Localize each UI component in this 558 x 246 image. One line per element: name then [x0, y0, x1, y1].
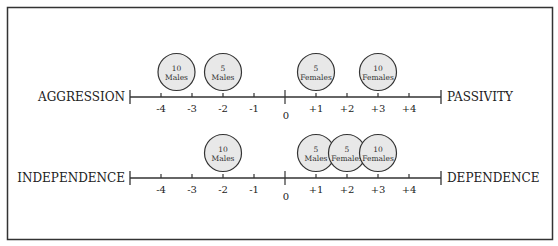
group-circle: 10Males: [158, 54, 195, 91]
group-sex: Males: [212, 154, 235, 163]
group-sex: Males: [212, 73, 235, 82]
tick-label: +3: [371, 103, 386, 114]
group-sex: Males: [305, 154, 328, 163]
diagram-frame: [8, 8, 553, 240]
left-label: INDEPENDENCE: [17, 171, 125, 185]
tick-label: +1: [309, 184, 324, 195]
tick-label: 0: [283, 110, 289, 121]
tick-label: +2: [340, 184, 355, 195]
group-count: 10: [373, 145, 383, 154]
tick-label: 0: [283, 191, 289, 202]
tick-label: +2: [340, 103, 355, 114]
group-count: 5: [314, 64, 319, 73]
left-label: AGGRESSION: [37, 90, 125, 104]
tick-label: -3: [187, 184, 197, 195]
group-circle: 5Males: [205, 54, 242, 91]
group-sex: Females: [331, 154, 363, 163]
tick-label: -2: [218, 184, 228, 195]
right-label: DEPENDENCE: [447, 171, 540, 185]
group-count: 10: [373, 64, 383, 73]
right-label: PASSIVITY: [447, 90, 514, 104]
tick-label: -3: [187, 103, 197, 114]
tick-label: +4: [402, 103, 417, 114]
group-circle: 5Females: [298, 54, 335, 91]
tick-label: +1: [309, 103, 324, 114]
tick-label: -2: [218, 103, 228, 114]
group-circle: 10Males: [205, 135, 242, 172]
group-sex: Females: [362, 154, 394, 163]
tick-label: -1: [249, 103, 259, 114]
group-circle: 10Females: [360, 54, 397, 91]
tick-label: +4: [402, 184, 417, 195]
group-sex: Males: [165, 73, 188, 82]
group-count: 10: [172, 64, 182, 73]
group-count: 5: [345, 145, 350, 154]
group-count: 10: [218, 145, 228, 154]
scale-diagram: AGGRESSION PASSIVITY -4-3-2-10+1+2+3+4 1…: [0, 0, 558, 246]
tick-label: -1: [249, 184, 259, 195]
group-sex: Females: [300, 73, 332, 82]
group-sex: Females: [362, 73, 394, 82]
group-count: 5: [221, 64, 226, 73]
tick-label: -4: [156, 184, 166, 195]
group-circle: 10Females: [360, 135, 397, 172]
tick-label: -4: [156, 103, 166, 114]
group-count: 5: [314, 145, 319, 154]
tick-label: +3: [371, 184, 386, 195]
